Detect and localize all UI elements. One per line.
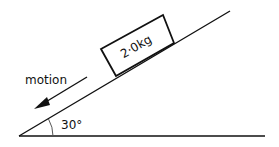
angle-arc (49, 119, 54, 136)
mass-block: 2·0kg (101, 15, 174, 76)
angle-label: 30° (61, 118, 82, 132)
inclined-plane-diagram: 30° 2·0kg motion (0, 0, 279, 147)
arrowhead-icon (34, 97, 50, 109)
motion-label: motion (25, 73, 67, 87)
